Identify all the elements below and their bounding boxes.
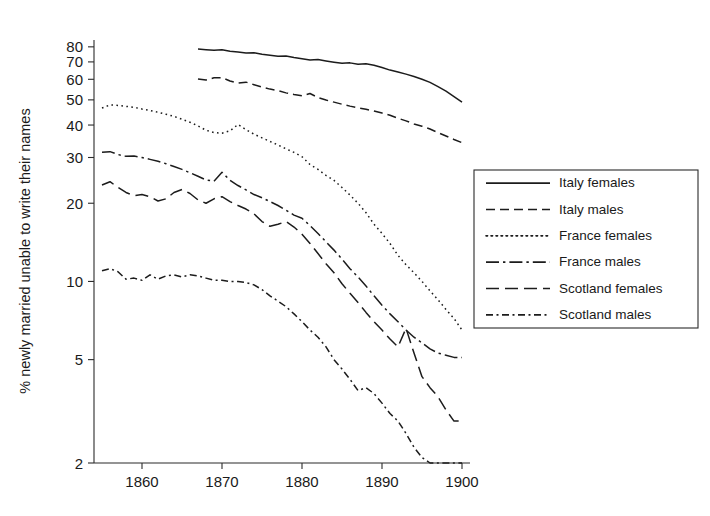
- y-tick-label: 2: [75, 455, 83, 472]
- x-tick-label: 1870: [205, 473, 238, 490]
- y-tick-label: 70: [66, 53, 83, 70]
- series-line: [102, 105, 462, 330]
- data-series-group: [102, 49, 462, 463]
- series-line: [102, 182, 462, 421]
- y-tick-label: 30: [66, 149, 83, 166]
- y-axis-title: % newly married unable to write their na…: [17, 108, 33, 393]
- axes: [94, 40, 470, 463]
- chart-canvas: 251020304050607080 18601870188018901900 …: [0, 0, 710, 516]
- legend-label-france-males: France males: [559, 254, 641, 269]
- series-line: [198, 49, 462, 102]
- series-line: [102, 152, 462, 358]
- series-line: [102, 269, 462, 463]
- x-tick-label: 1900: [445, 473, 478, 490]
- series-line: [198, 78, 462, 143]
- y-tick-label: 10: [66, 273, 83, 290]
- x-axis-ticks: 18601870188018901900: [125, 463, 478, 490]
- chart-legend: Italy femalesItaly malesFrance femalesFr…: [474, 170, 698, 328]
- y-tick-label: 60: [66, 71, 83, 88]
- y-tick-label: 80: [66, 38, 83, 55]
- x-tick-label: 1860: [125, 473, 158, 490]
- legend-label-france-females: France females: [559, 228, 652, 243]
- legend-label-scotland-males: Scotland males: [559, 307, 652, 322]
- y-tick-label: 5: [75, 351, 83, 368]
- y-tick-label: 40: [66, 117, 83, 134]
- legend-label-scotland-females: Scotland females: [559, 281, 663, 296]
- literacy-line-chart-figure: 251020304050607080 18601870188018901900 …: [0, 0, 710, 516]
- x-tick-label: 1880: [285, 473, 318, 490]
- legend-label-italy-females: Italy females: [559, 175, 635, 190]
- legend-frame: [474, 170, 698, 328]
- x-tick-label: 1890: [365, 473, 398, 490]
- y-tick-label: 20: [66, 195, 83, 212]
- y-axis-ticks: 251020304050607080: [66, 38, 94, 471]
- y-tick-label: 50: [66, 91, 83, 108]
- legend-label-italy-males: Italy males: [559, 202, 624, 217]
